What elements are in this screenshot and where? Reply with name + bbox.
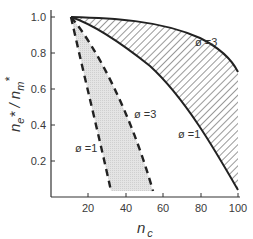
annotation-phi1-solid: ø =1 (178, 128, 200, 140)
x-tick-60: 60 (157, 202, 169, 214)
chart: 0.2 0.4 0.6 0.8 1.0 20 40 60 80 100 ø =3… (0, 0, 253, 239)
annotation-phi3-dashed: ø =3 (134, 108, 156, 120)
y-tick-0.4: 0.4 (31, 119, 46, 131)
annotation-phi3-solid: ø =3 (195, 36, 217, 48)
y-tick-0.6: 0.6 (31, 83, 46, 95)
y-tick-0.2: 0.2 (31, 155, 46, 167)
x-axis-label: nc (137, 219, 153, 239)
y-tick-0.8: 0.8 (31, 47, 46, 59)
x-tick-80: 80 (195, 202, 207, 214)
y-tick-1.0: 1.0 (31, 11, 46, 23)
x-tick-20: 20 (82, 202, 94, 214)
x-tick-40: 40 (120, 202, 132, 214)
x-tick-100: 100 (229, 202, 247, 214)
annotation-phi1-dashed: ø =1 (75, 142, 97, 154)
y-axis-label: ne* / nm* (3, 77, 26, 132)
